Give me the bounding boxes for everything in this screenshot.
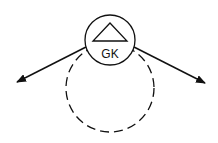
arrow-left xyxy=(17,47,86,82)
arrow-right xyxy=(134,47,205,83)
node-label: GK xyxy=(101,47,118,61)
diagram-canvas: GK xyxy=(0,0,218,143)
